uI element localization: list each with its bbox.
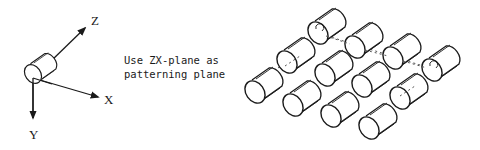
note-line-2: patterning plane [124,68,225,80]
cylinder-instance [279,80,321,120]
patterning-plane-note: Use ZX-plane as patterning plane [124,53,225,81]
y-axis-label: Y [29,128,38,141]
note-line-1: Use ZX-plane as [124,54,219,66]
patterning-diagram: Z X Y Use ZX-plane as patterning plane [0,0,480,150]
z-axis-label: Z [91,14,99,27]
cylinder-instance [241,67,283,107]
diagram-canvas [0,0,480,150]
cylinder-instance [311,50,353,90]
cylinder-instance [317,91,359,131]
coordinate-axes-icon [21,28,98,118]
x-axis-label: X [104,93,113,106]
cylinder-instance [273,37,315,77]
cylinder-instance [355,103,397,143]
